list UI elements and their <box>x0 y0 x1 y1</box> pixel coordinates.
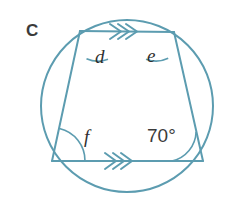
circumscribed-circle <box>41 20 213 192</box>
side-left <box>52 31 80 161</box>
angle-label-known: 70° <box>147 126 176 145</box>
side-right <box>174 32 203 161</box>
angle-label-d: d <box>95 47 105 66</box>
angle-label-e: e <box>147 46 155 65</box>
part-label: C <box>26 22 38 39</box>
geometry-figure: C d e f 70° <box>0 0 234 210</box>
angle-label-f: f <box>84 127 89 146</box>
angle-arc-f <box>59 129 85 162</box>
